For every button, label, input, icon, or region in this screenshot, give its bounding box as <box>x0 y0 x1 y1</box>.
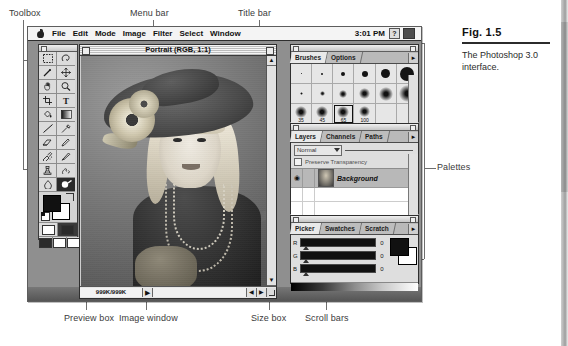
brush-cell-soft-3[interactable] <box>312 84 333 104</box>
layers-palette-menu-icon[interactable]: ► <box>408 132 418 142</box>
eraser-tool-icon[interactable] <box>39 136 57 150</box>
tab-paths[interactable]: Paths <box>360 131 390 142</box>
line-tool-icon[interactable] <box>39 122 57 136</box>
blur-tool-icon[interactable] <box>39 178 57 192</box>
toolbox-palette[interactable]: T <box>38 44 78 240</box>
brush-cell-soft-1[interactable] <box>291 84 312 104</box>
slider-track-g[interactable] <box>300 251 376 260</box>
brushes-palette-tabs[interactable]: Brushes Options ► <box>291 52 418 64</box>
opacity-slider[interactable] <box>345 150 413 151</box>
standard-mode-button[interactable] <box>39 223 58 237</box>
menu-bar[interactable]: File Edit Mode Image Filter Select Windo… <box>28 27 421 41</box>
brush-cell-45[interactable]: 45 <box>312 104 333 124</box>
brush-grid[interactable]: 35 45 65 100 <box>291 64 418 124</box>
magic-wand-tool-icon[interactable] <box>39 66 57 80</box>
picker-palette-tabs[interactable]: Picker Swatches Scratch ► <box>291 223 418 235</box>
layer-name[interactable]: Background <box>337 175 378 182</box>
paint-bucket-tool-icon[interactable] <box>39 108 57 122</box>
lasso-tool-icon[interactable] <box>57 52 75 66</box>
menu-item-file[interactable]: File <box>52 29 66 38</box>
application-switcher-icon[interactable] <box>403 28 415 39</box>
marquee-tool-icon[interactable] <box>39 52 57 66</box>
picker-palette-menu-icon[interactable]: ► <box>408 224 418 234</box>
color-sliders[interactable]: R 0 G 0 B 0 <box>293 238 388 277</box>
menu-bar-clock[interactable]: 3:01 PM <box>355 29 385 38</box>
preview-box[interactable]: 999K/999K <box>80 288 143 297</box>
move-tool-icon[interactable] <box>57 66 75 80</box>
horizontal-scroll-track[interactable] <box>153 288 247 297</box>
image-window[interactable]: Portrait (RGB, 1:1) ▲ <box>79 44 277 299</box>
zoom-box[interactable] <box>266 47 274 55</box>
image-canvas[interactable] <box>81 56 266 286</box>
vertical-scroll-bar[interactable]: ▲ ▼ <box>266 56 276 286</box>
layers-palette[interactable]: Layers Channels Paths ► Normal Preserve … <box>290 123 419 214</box>
menu-item-filter[interactable]: Filter <box>153 29 173 38</box>
tab-options[interactable]: Options <box>326 52 363 63</box>
image-window-title-bar[interactable]: Portrait (RGB, 1:1) <box>80 45 276 56</box>
slider-thumb-b[interactable] <box>303 272 309 276</box>
menu-item-window[interactable]: Window <box>210 29 241 38</box>
brush-cell-9[interactable] <box>354 64 375 84</box>
slider-track-r[interactable] <box>300 238 376 247</box>
preserve-transparency-row[interactable]: Preserve Transparency <box>291 158 418 168</box>
foreground-color-swatch[interactable] <box>43 195 61 212</box>
standard-screen-mode-button[interactable] <box>39 237 53 249</box>
size-box[interactable] <box>267 288 276 297</box>
layer-visibility-eye-icon[interactable]: ◉ <box>291 169 303 187</box>
quick-mask-mode-button[interactable] <box>58 223 77 237</box>
brushes-palette-menu-icon[interactable]: ► <box>408 53 418 63</box>
blend-mode-dropdown[interactable]: Normal <box>294 145 342 156</box>
layers-palette-tabs[interactable]: Layers Channels Paths ► <box>291 131 418 143</box>
picker-palette-body[interactable]: R 0 G 0 B 0 <box>291 235 418 291</box>
slider-value-g[interactable]: 0 <box>376 253 388 259</box>
zoom-tool-icon[interactable] <box>57 80 75 94</box>
horizontal-scroll-bar[interactable]: 999K/999K ▶ ◀ ▶ <box>80 286 276 298</box>
slider-row-r[interactable]: R 0 <box>293 238 388 247</box>
apple-menu-icon[interactable] <box>36 29 45 39</box>
slider-thumb-g[interactable] <box>303 259 309 263</box>
color-ramp-bar[interactable] <box>291 282 418 291</box>
scroll-down-arrow[interactable]: ▼ <box>267 276 276 286</box>
brush-cell-35[interactable]: 35 <box>291 104 312 124</box>
brush-cell-5[interactable] <box>333 64 354 84</box>
screen-mode-row[interactable] <box>39 237 77 249</box>
tab-swatches[interactable]: Swatches <box>319 223 361 234</box>
brush-cell-100[interactable]: 100 <box>354 104 375 124</box>
brush-cell-3[interactable] <box>312 64 333 84</box>
menu-item-edit[interactable]: Edit <box>73 29 88 38</box>
crop-tool-icon[interactable] <box>39 94 57 108</box>
slider-thumb-r[interactable] <box>303 246 309 250</box>
toolbox-title-bar[interactable] <box>39 45 77 52</box>
full-screen-with-menubar-button[interactable] <box>53 237 67 249</box>
picker-palette[interactable]: Picker Swatches Scratch ► R 0 G 0 <box>290 215 419 284</box>
slider-row-g[interactable]: G 0 <box>293 251 388 260</box>
mask-mode-row[interactable] <box>39 223 77 237</box>
preview-box-popup-arrow[interactable]: ▶ <box>143 288 153 297</box>
default-colors-icon[interactable] <box>41 212 50 221</box>
brushes-palette[interactable]: Brushes Options ► 35 <box>290 44 419 122</box>
brushes-scroll-bar[interactable] <box>408 75 418 124</box>
swap-colors-icon[interactable] <box>66 193 74 201</box>
brush-cell-soft-5[interactable] <box>333 84 354 104</box>
airbrush-tool-icon[interactable] <box>39 150 57 164</box>
brushes-palette-body[interactable]: 35 45 65 100 <box>291 64 418 124</box>
brush-cell-13[interactable] <box>376 64 397 84</box>
picker-swatch-box[interactable] <box>390 238 416 277</box>
picker-controls[interactable]: R 0 G 0 B 0 <box>291 235 418 280</box>
brush-cell-soft-13[interactable] <box>376 84 397 104</box>
brush-cell-empty-1[interactable] <box>376 104 397 124</box>
layers-palette-title-bar[interactable] <box>291 124 418 131</box>
toolbox-tool-grid[interactable]: T <box>39 52 75 192</box>
eyedropper-tool-icon[interactable] <box>57 122 75 136</box>
brushes-palette-title-bar[interactable] <box>291 45 418 52</box>
brush-cell-65[interactable]: 65 <box>333 104 354 124</box>
brush-cell-1[interactable] <box>291 64 312 84</box>
slider-value-r[interactable]: 0 <box>376 240 388 246</box>
scroll-up-arrow[interactable]: ▲ <box>267 56 276 66</box>
layer-list[interactable]: ◉ Background <box>291 168 418 215</box>
tab-layers[interactable]: Layers <box>290 131 323 142</box>
tab-scratch[interactable]: Scratch <box>359 223 395 234</box>
help-icon[interactable]: ? <box>389 28 400 39</box>
pencil-tool-icon[interactable] <box>57 136 75 150</box>
tab-channels[interactable]: Channels <box>321 131 363 142</box>
